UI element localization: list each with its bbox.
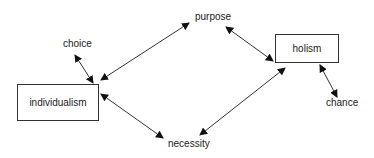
edge-individualism-necessity bbox=[101, 94, 163, 138]
edge-necessity-holism bbox=[200, 68, 285, 135]
edge-purpose-holism bbox=[226, 27, 273, 61]
node-individualism-label: individualism bbox=[29, 97, 86, 108]
node-purpose: purpose bbox=[195, 11, 231, 22]
node-necessity: necessity bbox=[168, 138, 210, 149]
node-holism-label: holism bbox=[293, 43, 322, 54]
edge-holism-chance bbox=[320, 65, 337, 97]
node-individualism: individualism bbox=[17, 84, 99, 121]
node-holism: holism bbox=[275, 34, 339, 63]
node-choice: choice bbox=[63, 38, 92, 49]
diagram-edges bbox=[0, 0, 374, 158]
node-chance: chance bbox=[326, 97, 358, 108]
edge-choice-individualism bbox=[75, 55, 93, 83]
edge-purpose-individualism bbox=[101, 23, 189, 80]
